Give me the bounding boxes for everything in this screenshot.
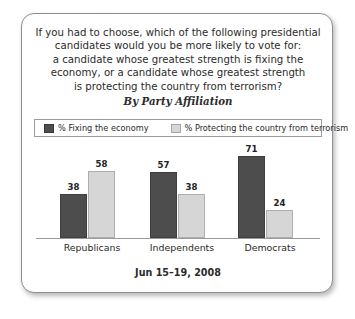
chart-title-block: If you had to choose, which of the follo… bbox=[30, 26, 326, 108]
bar-democrats-terrorism: 24 bbox=[266, 210, 293, 238]
legend-label-series-1: % Protecting the country from terrorism bbox=[185, 123, 349, 133]
chart-footer-date: Jun 15–19, 2008 bbox=[22, 267, 334, 278]
bar-republicans-economy: 38 bbox=[60, 194, 87, 238]
x-axis-category-labels: Republicans Independents Democrats bbox=[32, 242, 324, 258]
x-axis-baseline bbox=[36, 238, 320, 239]
title-line-3: a candidate whose greatest strength is f… bbox=[30, 53, 326, 66]
bar-republicans-terrorism: 58 bbox=[88, 171, 115, 238]
bar-value-democrats-economy: 71 bbox=[246, 144, 258, 154]
title-line-2: candidates would you be more likely to v… bbox=[30, 39, 326, 52]
category-label-independents: Independents bbox=[136, 242, 228, 253]
bar-value-independents-terrorism: 38 bbox=[186, 182, 198, 192]
bar-group-republicans: 38 58 bbox=[46, 146, 138, 238]
category-label-democrats: Democrats bbox=[224, 242, 316, 253]
bar-value-republicans-terrorism: 58 bbox=[96, 159, 108, 169]
title-line-5: is protecting the country from terrorism… bbox=[30, 80, 326, 93]
legend-swatch-icon-series-1 bbox=[171, 124, 181, 133]
plot-area: 38 58 57 38 71 24 bbox=[32, 146, 324, 239]
legend-item-fixing-economy: % Fixing the economy bbox=[44, 123, 149, 133]
category-label-republicans: Republicans bbox=[46, 242, 138, 253]
bar-group-democrats: 71 24 bbox=[224, 146, 316, 238]
legend-swatch-icon-series-0 bbox=[44, 124, 54, 133]
bar-value-democrats-terrorism: 24 bbox=[274, 198, 286, 208]
chart-subtitle: By Party Affiliation bbox=[30, 94, 326, 108]
legend-label-series-0: % Fixing the economy bbox=[58, 123, 149, 133]
bar-independents-economy: 57 bbox=[150, 172, 177, 238]
title-line-4: economy, or a candidate whose greatest s… bbox=[30, 66, 326, 79]
chart-legend: % Fixing the economy % Protecting the co… bbox=[34, 119, 322, 137]
bar-value-republicans-economy: 38 bbox=[68, 182, 80, 192]
title-line-1: If you had to choose, which of the follo… bbox=[30, 26, 326, 39]
bar-group-independents: 57 38 bbox=[136, 146, 228, 238]
bar-democrats-economy: 71 bbox=[238, 156, 265, 238]
bar-value-independents-economy: 57 bbox=[158, 160, 170, 170]
legend-item-protecting-country: % Protecting the country from terrorism bbox=[171, 123, 349, 133]
bar-independents-terrorism: 38 bbox=[178, 194, 205, 238]
chart-card: If you had to choose, which of the follo… bbox=[21, 13, 333, 293]
